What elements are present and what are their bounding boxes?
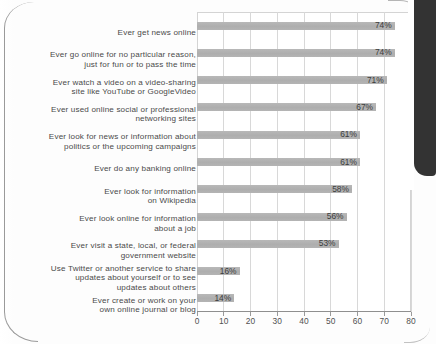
bar-value-label: 53% (319, 238, 336, 248)
bar (197, 240, 339, 248)
category-label: Ever do any banking online (94, 164, 196, 174)
category-label: Ever used online social or professional … (51, 105, 196, 124)
x-tick-label: 0 (195, 316, 200, 326)
horizontal-bar-chart: 74%74%71%67%61%61%58%56%53%16%14% 010203… (0, 0, 436, 344)
category-label: Ever create or work on your own online j… (92, 296, 196, 315)
category-label: Ever visit a state, local, or federal go… (71, 241, 196, 260)
x-tick-label: 50 (326, 316, 335, 326)
bar-value-label: 14% (214, 293, 231, 303)
x-tick-label: 60 (353, 316, 362, 326)
category-labels: Ever get news onlineEver go online for n… (8, 10, 196, 310)
bar-value-label: 61% (340, 157, 357, 167)
x-tick-label: 70 (380, 316, 389, 326)
x-tick-label: 20 (246, 316, 255, 326)
x-tick-label: 30 (273, 316, 282, 326)
category-label: Ever get news online (118, 28, 196, 38)
category-label: Ever look online for information about a… (79, 214, 196, 233)
x-tick-label: 40 (299, 316, 308, 326)
bar-value-label: 16% (220, 266, 237, 276)
gridline-80 (411, 12, 412, 312)
category-label: Ever watch a video on a video-sharing si… (53, 78, 196, 97)
category-label: Ever look for news or information about … (49, 132, 196, 151)
category-label: Ever go online for no particular reason,… (50, 50, 196, 69)
bar (197, 131, 360, 139)
bar (197, 22, 395, 30)
x-tick-label: 10 (219, 316, 228, 326)
category-label: Use Twitter or another service to share … (51, 264, 196, 293)
bar-value-label: 74% (375, 20, 392, 30)
chart-page: 74%74%71%67%61%61%58%56%53%16%14% 010203… (0, 0, 436, 344)
bar-value-label: 61% (340, 129, 357, 139)
bar (197, 213, 347, 221)
bar-value-label: 56% (327, 211, 344, 221)
category-label: Ever look for information on Wikipedia (104, 187, 196, 206)
bar-value-label: 67% (356, 102, 373, 112)
bar (197, 158, 360, 166)
x-tick-label: 80 (406, 316, 415, 326)
bar-value-label: 71% (367, 75, 384, 85)
bar (197, 185, 352, 193)
bar (197, 76, 387, 84)
bar (197, 103, 376, 111)
bar-value-label: 74% (375, 47, 392, 57)
bar-value-label: 58% (332, 184, 349, 194)
bar (197, 49, 395, 57)
